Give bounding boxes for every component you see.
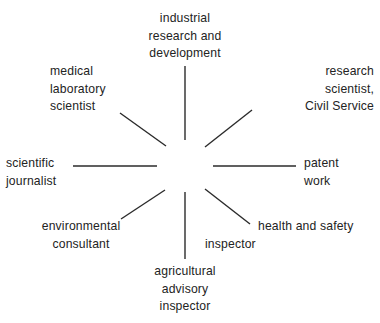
spoke-northwest (120, 113, 166, 146)
label-health-and-safety: health and safety (258, 218, 378, 236)
label-health-and-safety-inspector: inspector (205, 236, 279, 254)
spoke-southwest (121, 190, 165, 219)
label-research-scientist-civil-service: research scientist, Civil Service (248, 63, 374, 116)
label-medical-laboratory-scientist: medical laboratory scientist (50, 63, 156, 116)
careers-radial-diagram: industrial research and development rese… (0, 0, 380, 323)
label-industrial-research-and-development: industrial research and development (118, 10, 252, 63)
label-agricultural-advisory-inspector: agricultural advisory inspector (124, 263, 246, 316)
spoke-southeast (205, 189, 250, 224)
label-patent-work: patent work (304, 155, 376, 190)
spoke-northeast (205, 110, 252, 147)
label-environmental-consultant: environmental consultant (18, 218, 144, 253)
label-scientific-journalist: scientific journalist (6, 155, 78, 190)
